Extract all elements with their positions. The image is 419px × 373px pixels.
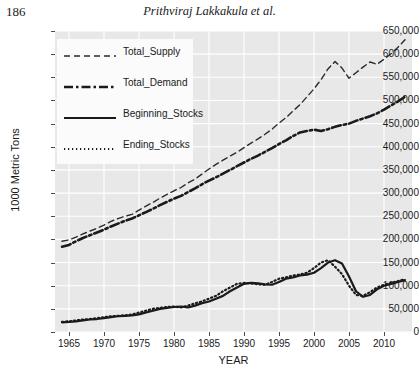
y-tick-label: 50,000 bbox=[367, 303, 419, 314]
legend-swatch bbox=[64, 146, 116, 149]
x-tick-label: 1985 bbox=[189, 338, 229, 349]
x-tick-mark bbox=[69, 332, 70, 336]
y-tick-mark bbox=[51, 77, 55, 78]
y-tick-label: 150,000 bbox=[367, 257, 419, 268]
page-header: 186 Prithviraj Lakkakula et al. bbox=[0, 0, 419, 26]
y-tick-mark bbox=[51, 193, 55, 194]
y-tick-mark bbox=[51, 54, 55, 55]
x-tick-mark bbox=[209, 332, 210, 336]
y-tick-mark bbox=[51, 31, 55, 32]
x-tick-mark bbox=[244, 332, 245, 336]
series-line-beginning_stocks bbox=[62, 260, 405, 322]
x-tick-mark bbox=[314, 332, 315, 336]
y-tick-mark bbox=[51, 216, 55, 217]
y-tick-mark bbox=[51, 100, 55, 101]
y-tick-label: 450,000 bbox=[367, 118, 419, 129]
x-tick-label: 2005 bbox=[329, 338, 369, 349]
x-tick-label: 1995 bbox=[259, 338, 299, 349]
y-tick-label: 200,000 bbox=[367, 233, 419, 244]
x-tick-label: 2010 bbox=[364, 338, 404, 349]
x-tick-label: 1970 bbox=[84, 338, 124, 349]
x-tick-label: 1990 bbox=[224, 338, 264, 349]
y-tick-label: 300,000 bbox=[367, 187, 419, 198]
chart-figure: Total_SupplyTotal_DemandBeginning_Stocks… bbox=[0, 24, 419, 373]
y-tick-mark bbox=[51, 170, 55, 171]
y-tick-mark bbox=[51, 286, 55, 287]
y-tick-label: 0 bbox=[367, 326, 419, 337]
y-tick-mark bbox=[51, 147, 55, 148]
x-tick-label: 2000 bbox=[294, 338, 334, 349]
legend-label: Total_Demand bbox=[123, 77, 187, 88]
y-tick-label: 650,000 bbox=[367, 25, 419, 36]
legend-swatch bbox=[64, 53, 116, 56]
x-tick-mark bbox=[349, 332, 350, 336]
running-title: Prithviraj Lakkakula et al. bbox=[0, 4, 419, 19]
x-tick-mark bbox=[279, 332, 280, 336]
x-tick-mark bbox=[384, 332, 385, 336]
chart-legend: Total_SupplyTotal_DemandBeginning_Stocks… bbox=[57, 39, 193, 164]
legend-swatch bbox=[64, 84, 116, 87]
y-tick-label: 500,000 bbox=[367, 94, 419, 105]
legend-item-beginning_stocks[interactable]: Beginning_Stocks bbox=[57, 101, 193, 132]
legend-label: Ending_Stocks bbox=[123, 139, 190, 150]
legend-label: Beginning_Stocks bbox=[123, 108, 203, 119]
legend-item-total_supply[interactable]: Total_Supply bbox=[57, 39, 193, 70]
x-tick-label: 1965 bbox=[49, 338, 89, 349]
series-line-ending_stocks bbox=[62, 260, 405, 322]
y-tick-mark bbox=[51, 124, 55, 125]
y-tick-mark bbox=[51, 309, 55, 310]
x-axis-label: YEAR bbox=[55, 354, 412, 366]
y-tick-mark bbox=[51, 263, 55, 264]
plot-area: Total_SupplyTotal_DemandBeginning_Stocks… bbox=[55, 31, 412, 332]
legend-item-ending_stocks[interactable]: Ending_Stocks bbox=[57, 132, 193, 163]
legend-item-total_demand[interactable]: Total_Demand bbox=[57, 70, 193, 101]
y-tick-mark bbox=[51, 332, 55, 333]
y-tick-label: 250,000 bbox=[367, 210, 419, 221]
x-tick-label: 1980 bbox=[154, 338, 194, 349]
y-tick-label: 600,000 bbox=[367, 48, 419, 59]
y-tick-label: 550,000 bbox=[367, 71, 419, 82]
y-tick-label: 350,000 bbox=[367, 164, 419, 175]
x-tick-mark bbox=[104, 332, 105, 336]
legend-label: Total_Supply bbox=[123, 46, 180, 57]
x-tick-mark bbox=[174, 332, 175, 336]
y-tick-label: 400,000 bbox=[367, 141, 419, 152]
x-tick-mark bbox=[139, 332, 140, 336]
y-tick-mark bbox=[51, 239, 55, 240]
x-tick-label: 1975 bbox=[119, 338, 159, 349]
y-axis-label: 1000 Metric Tons bbox=[9, 60, 21, 280]
y-tick-label: 100,000 bbox=[367, 280, 419, 291]
legend-swatch bbox=[64, 115, 116, 118]
